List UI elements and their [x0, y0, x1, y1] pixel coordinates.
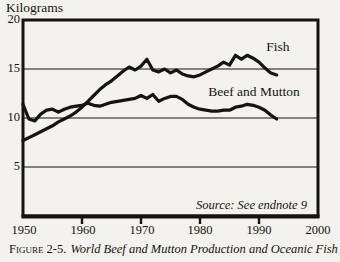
y-tick-label-20: 20	[0, 13, 20, 26]
x-tick-label-1990: 1990	[237, 224, 281, 237]
x-tick-label-1960: 1960	[61, 224, 105, 237]
fish-series-label: Fish	[258, 40, 298, 54]
figure-caption-title: World Beef and Mutton Production and Oce…	[70, 242, 337, 256]
y-tick-label-10: 10	[0, 111, 20, 124]
y-tick-label-15: 15	[0, 62, 20, 75]
source-note: Source: See endnote 9	[196, 199, 307, 212]
x-tick-label-1980: 1980	[178, 224, 222, 237]
figure-caption: Figure 2-5.World Beef and Mutton Product…	[9, 243, 333, 256]
x-tick-label-2000: 2000	[296, 224, 340, 237]
y-tick-label-5: 5	[0, 160, 20, 173]
beef-mutton-series-label: Beef and Mutton	[203, 85, 305, 99]
x-tick-label-1970: 1970	[120, 224, 164, 237]
x-tick-label-1950: 1950	[2, 224, 46, 237]
figure-caption-number: Figure 2-5.	[9, 242, 66, 256]
